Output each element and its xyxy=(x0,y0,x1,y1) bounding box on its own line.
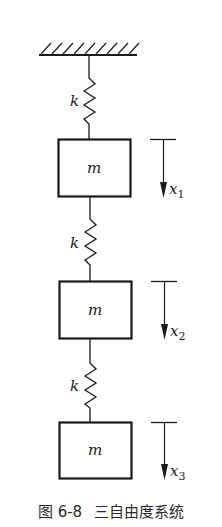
spring-3-label: k xyxy=(70,377,79,395)
figure-title: 三自由度系统 xyxy=(94,503,184,521)
ground-hatch-icon xyxy=(41,43,139,54)
spring-3: k xyxy=(70,339,96,422)
displacement-label-1: x1 xyxy=(169,180,184,201)
mass-1: m xyxy=(59,140,131,197)
fixed-ground xyxy=(39,43,139,55)
arrow-down-icon xyxy=(161,324,168,340)
spring-1: k xyxy=(70,55,95,139)
spring-1-label: k xyxy=(70,92,79,110)
spring-icon xyxy=(84,55,95,139)
spring-2: k xyxy=(70,197,96,281)
spring-2-label: k xyxy=(70,234,79,252)
spring-icon xyxy=(85,197,96,281)
figure-caption: 图 6-8三自由度系统 xyxy=(38,503,184,521)
mass-3: m xyxy=(60,423,132,479)
mass-2: m xyxy=(60,282,132,339)
mass-1-label: m xyxy=(87,159,101,177)
mass-3-label: m xyxy=(88,441,102,459)
displacement-label-3: x3 xyxy=(170,462,185,483)
mass-2-label: m xyxy=(88,301,102,319)
figure-number: 图 6-8 xyxy=(38,503,82,521)
displacement-label-2: x2 xyxy=(170,322,185,343)
arrow-down-icon xyxy=(161,464,168,480)
diagram-canvas: k m x1 k m x2 k m x3 xyxy=(0,0,222,527)
spring-icon xyxy=(85,339,96,422)
arrow-down-icon xyxy=(160,182,167,198)
